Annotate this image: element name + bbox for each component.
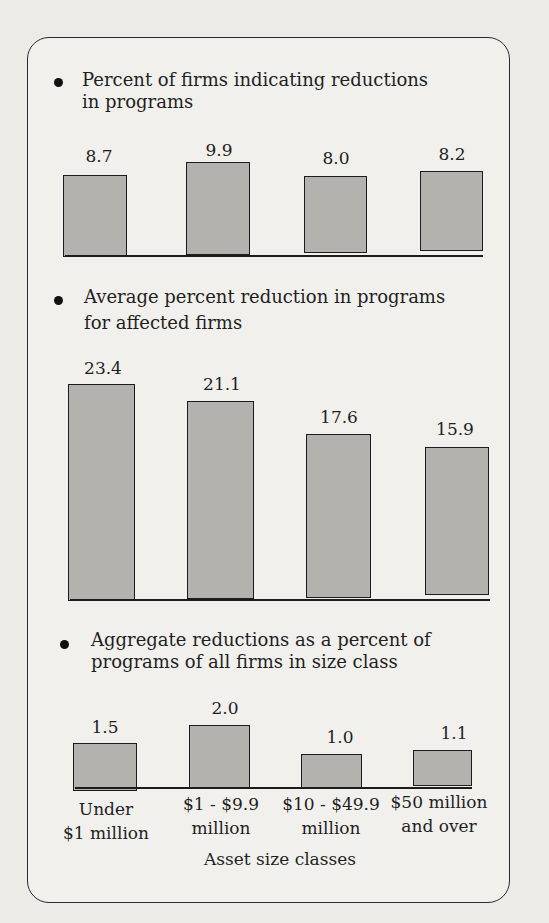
bar-value: 8.2 [412, 144, 492, 164]
bar-value: 23.4 [63, 358, 143, 378]
category-label: $10 - $49.9 million [271, 792, 391, 840]
category-label: Under $1 million [46, 797, 166, 845]
bar [425, 447, 489, 595]
baseline [75, 787, 472, 789]
bar-value: 8.0 [296, 148, 376, 168]
bar [73, 743, 137, 791]
baseline [65, 255, 483, 257]
bar-value: 1.1 [414, 723, 494, 743]
panel-1-title-line1: Percent of firms indicating reductions [82, 70, 428, 90]
bar [420, 171, 483, 251]
bar-value: 1.0 [300, 727, 380, 747]
panel-3-title-line1: Aggregate reductions as a percent of [91, 630, 431, 650]
bullet-icon [60, 640, 69, 649]
bullet-icon [54, 296, 63, 305]
panel-2-title-line2: for affected firms [84, 313, 242, 333]
bar-value: 2.0 [185, 698, 265, 718]
bar-value: 1.5 [65, 717, 145, 737]
bar-value: 21.1 [182, 374, 262, 394]
bar [68, 384, 135, 601]
x-axis-label: Asset size classes [180, 849, 380, 869]
bullet-icon [54, 78, 63, 87]
bar [306, 434, 371, 598]
panel-1-title-line2: in programs [82, 92, 193, 112]
bar [186, 162, 250, 255]
bar-value: 9.9 [179, 140, 259, 160]
bar [301, 754, 362, 788]
bar [304, 176, 367, 253]
bar [63, 175, 127, 257]
bar-value: 17.6 [299, 407, 379, 427]
baseline [70, 599, 490, 601]
bar [413, 750, 472, 786]
category-label: $50 million and over [379, 790, 499, 838]
bar-value: 15.9 [415, 419, 495, 439]
panel-2-title-line1: Average percent reduction in programs [84, 287, 445, 307]
bar-value: 8.7 [59, 146, 139, 166]
category-label: $1 - $9.9 million [161, 792, 281, 840]
bar [189, 725, 250, 789]
panel-3-title-line2: programs of all firms in size class [91, 652, 398, 672]
bar [187, 401, 254, 599]
